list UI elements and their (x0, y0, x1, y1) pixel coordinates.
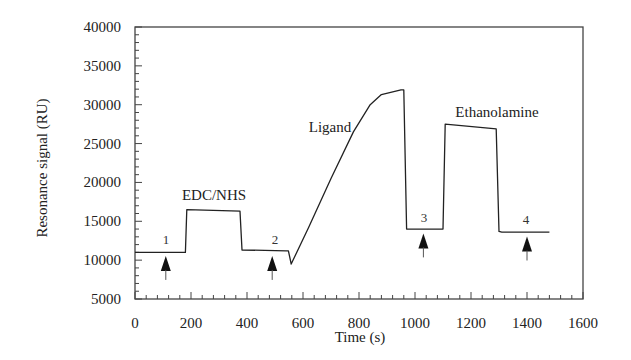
plot-frame (135, 27, 583, 299)
annotation-ligand: Ligand (309, 119, 352, 135)
annotation-ethanolamine: Ethanolamine (455, 104, 539, 120)
step-label-2: 2 (272, 232, 279, 247)
step-label-3: 3 (421, 210, 428, 225)
y-tick-label: 20000 (84, 174, 122, 190)
x-tick-label: 1200 (456, 315, 486, 331)
arrow-icon (161, 256, 171, 280)
x-tick-label: 0 (131, 315, 139, 331)
x-axis-ticks (135, 292, 583, 299)
x-tick-label: 1000 (400, 315, 430, 331)
x-tick-label: 400 (236, 315, 259, 331)
injection-arrows (161, 233, 532, 280)
y-axis-tick-labels: 500010000150002000025000300003500040000 (84, 19, 122, 307)
step-label-4: 4 (523, 212, 530, 227)
annotation-edc-nhs: EDC/NHS (182, 187, 246, 203)
x-tick-label: 600 (292, 315, 315, 331)
sensorgram-chart: 500010000150002000025000300003500040000 … (0, 0, 631, 360)
y-tick-label: 40000 (84, 19, 122, 35)
y-tick-label: 5000 (91, 291, 121, 307)
y-tick-label: 15000 (84, 213, 122, 229)
arrow-icon (522, 236, 532, 260)
y-tick-label: 35000 (84, 58, 122, 74)
y-axis-title: Resonance signal (RU) (34, 98, 51, 237)
x-axis-title: Time (s) (335, 329, 386, 346)
y-axis-ticks (135, 27, 142, 299)
y-tick-label: 25000 (84, 136, 122, 152)
y-tick-label: 30000 (84, 97, 122, 113)
x-tick-label: 1400 (512, 315, 542, 331)
step-label-1: 1 (163, 232, 170, 247)
y-tick-label: 10000 (84, 252, 122, 268)
x-tick-label: 1600 (568, 315, 598, 331)
arrow-icon (418, 233, 428, 257)
arrow-icon (267, 256, 277, 280)
x-tick-label: 200 (180, 315, 203, 331)
